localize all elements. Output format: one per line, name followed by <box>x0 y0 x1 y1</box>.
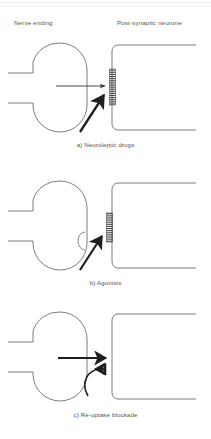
post-synaptic-neurone-c <box>112 314 196 399</box>
panel-a-group <box>8 43 196 132</box>
post-synaptic-neurone-a <box>112 45 196 130</box>
figure-canvas: Nerve ending Post-synaptic neurone <box>0 0 211 439</box>
vesicle-release-curve-b <box>78 232 85 250</box>
receptor-b <box>107 213 113 242</box>
panel-c-group <box>8 312 196 401</box>
agonist-arrow-b <box>80 236 102 270</box>
receptor-a <box>110 69 116 105</box>
caption-panel-c: c) Re-uptake blockade <box>0 411 211 418</box>
nerve-terminal-bouton-a <box>33 43 87 132</box>
caption-panel-b: b) Agonists <box>0 279 211 286</box>
nerve-terminal-bouton-c <box>33 312 87 401</box>
nerve-terminal-bouton-b <box>33 181 87 270</box>
neuroleptic-drug-arrow-a <box>80 95 104 132</box>
post-synaptic-neurone-b <box>112 183 196 268</box>
caption-panel-a: a) Neuroleptic drugs <box>0 141 211 148</box>
panel-b-group <box>8 181 196 270</box>
panel-a-drawing <box>0 0 211 439</box>
